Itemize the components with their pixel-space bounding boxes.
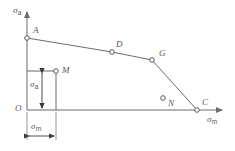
- point-label-N: N: [168, 99, 174, 108]
- vertical-dimension-subscript: a: [35, 83, 39, 90]
- x-axis-label: σm: [207, 115, 217, 124]
- point-label-C: C: [202, 98, 208, 107]
- vertical-dimension-label: σa: [30, 80, 38, 89]
- point-label-D: D: [116, 40, 123, 49]
- point-marker-M[interactable]: [54, 69, 59, 74]
- x-axis-subscript: m: [212, 118, 217, 125]
- point-marker-N[interactable]: [161, 96, 166, 101]
- origin-label: O: [15, 104, 22, 113]
- y-axis-label: σa: [13, 6, 21, 15]
- horizontal-dimension-subscript: m: [36, 125, 41, 132]
- segment-G-C: [152, 60, 197, 110]
- y-axis-subscript: a: [18, 9, 22, 16]
- construction-lines-group: [27, 71, 56, 110]
- segment-A-D: [27, 38, 112, 52]
- point-label-M: M: [62, 66, 70, 75]
- point-label-A: A: [33, 26, 39, 35]
- segment-D-G: [112, 52, 152, 60]
- horizontal-dimension-label: σm: [31, 122, 41, 131]
- point-marker-D[interactable]: [110, 50, 115, 55]
- point-label-G: G: [159, 49, 166, 58]
- x-axis-symbol: σ: [207, 114, 211, 124]
- y-axis-symbol: σ: [13, 5, 17, 15]
- fatigue-limit-diagram: σa σm O A D G C M N σa σm: [0, 0, 235, 151]
- point-marker-G[interactable]: [150, 58, 155, 63]
- point-marker-A[interactable]: [25, 36, 30, 41]
- point-marker-C[interactable]: [195, 108, 200, 113]
- horizontal-dimension-symbol: σ: [31, 121, 35, 131]
- vertical-dimension-symbol: σ: [30, 79, 34, 89]
